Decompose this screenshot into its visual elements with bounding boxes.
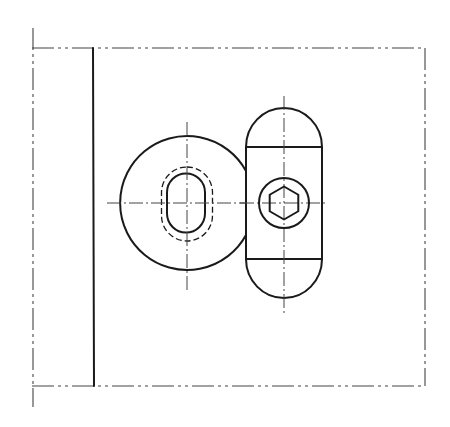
wall-edge-line [93, 48, 94, 386]
capsule-block [240, 96, 327, 313]
phantom-frame [32, 28, 425, 407]
technical-drawing [0, 0, 450, 427]
round-part [107, 122, 246, 292]
